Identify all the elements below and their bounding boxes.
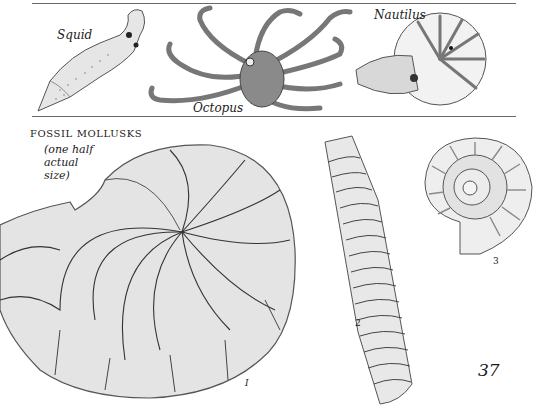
octopus-label: Octopus (193, 101, 243, 115)
figure-number-3: 3 (493, 256, 499, 266)
section-title: FOSSIL MOLLUSKS (30, 128, 142, 139)
fossil-2-illustration (320, 132, 415, 410)
figure-number-2: 2 (355, 318, 361, 328)
figure-number-1: I (245, 378, 249, 388)
octopus-illustration (140, 4, 365, 116)
page-number: 37 (478, 360, 500, 380)
squid-label: Squid (57, 28, 92, 42)
nautilus-label: Nautilus (374, 8, 426, 22)
fossil-1-illustration (0, 140, 300, 410)
fossil-3-illustration (420, 132, 540, 264)
